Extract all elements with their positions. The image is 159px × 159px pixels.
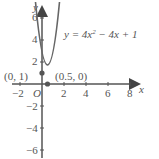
point-0.5-0 bbox=[45, 81, 50, 86]
point-label-0.5-0: (0.5, 0) bbox=[55, 70, 87, 83]
x-axis-label: x bbox=[138, 83, 144, 95]
point-0-1 bbox=[39, 70, 44, 75]
point-label-0-1: (0, 1) bbox=[4, 70, 28, 83]
x-tick-label: 2 bbox=[61, 87, 67, 99]
y-tick-label: −6 bbox=[26, 144, 38, 156]
y-tick-label: 4 bbox=[32, 33, 38, 45]
y-tick-label: 2 bbox=[32, 55, 38, 67]
origin-label: O bbox=[33, 87, 41, 99]
x-tick-label: −2 bbox=[12, 87, 24, 99]
parabola-chart: −2 2 4 6 8 6 4 2 −2 −4 −6 x y O (0, 1) (… bbox=[0, 0, 159, 159]
x-tick-label: 4 bbox=[83, 87, 89, 99]
parabola-curve bbox=[36, 2, 60, 65]
y-tick-label: −2 bbox=[26, 100, 38, 112]
equation-label: y = 4x2 − 4x + 1 bbox=[63, 28, 137, 40]
x-tick-label: 6 bbox=[105, 87, 111, 99]
y-tick-label: −4 bbox=[26, 122, 38, 134]
x-tick-label: 8 bbox=[127, 87, 133, 99]
